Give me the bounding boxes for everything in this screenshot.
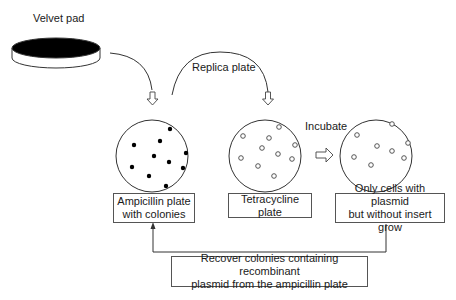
box-line: Tetracycline plate bbox=[229, 193, 311, 219]
box-line: Only cells with plasmid bbox=[336, 182, 444, 208]
incubate-label: Incubate bbox=[305, 120, 347, 133]
pad-to-ampicillin-curve bbox=[110, 53, 152, 90]
velvet-pad-icon bbox=[12, 38, 100, 68]
box-line: but without insert grow bbox=[336, 208, 444, 234]
result-label-box: Only cells with plasmid but without inse… bbox=[335, 193, 445, 223]
box-line: with colonies bbox=[123, 208, 186, 221]
box-line: Ampicillin plate bbox=[117, 195, 190, 208]
replica-plate-label: Replica plate bbox=[192, 61, 256, 74]
recover-colonies-box: Recover colonies containing recombinant … bbox=[171, 256, 368, 287]
box-line: plasmid from the ampicillin plate bbox=[191, 278, 348, 291]
box-line: Recover colonies containing recombinant bbox=[172, 252, 367, 278]
down-arrow-icon bbox=[147, 92, 158, 105]
ampicillin-plate-label-box: Ampicillin plate with colonies bbox=[113, 193, 195, 223]
right-arrow-icon bbox=[316, 148, 333, 162]
tetracycline-plate bbox=[229, 120, 301, 192]
ampicillin-plate bbox=[116, 120, 188, 192]
tetracycline-plate-label-box: Tetracycline plate bbox=[228, 193, 312, 218]
down-arrow-icon bbox=[263, 92, 274, 105]
velvet-pad-label: Velvet pad bbox=[33, 12, 84, 25]
